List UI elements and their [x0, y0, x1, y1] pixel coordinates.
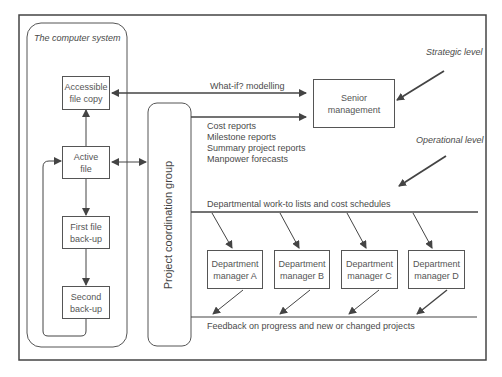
box-line: manager B: [278, 270, 325, 282]
box-line: Active: [74, 151, 99, 163]
second-backup-box[interactable]: Secondback-up: [62, 286, 110, 319]
box-line: Second: [70, 291, 102, 303]
strategic-level-label: Strategic level: [426, 47, 483, 58]
department-manager-b-box[interactable]: Departmentmanager B: [274, 250, 330, 289]
computer-system-label: The computer system: [34, 33, 121, 44]
box-line: Department: [211, 258, 258, 270]
box-line: file copy: [64, 93, 107, 105]
box-line: back-up: [70, 303, 102, 315]
department-manager-d-box[interactable]: Departmentmanager D: [408, 250, 465, 289]
active-file-box[interactable]: Activefile: [62, 146, 110, 179]
box-line: First file: [70, 221, 102, 233]
arrow-to-dept-d: [413, 213, 432, 248]
arrow-to-dept-a: [212, 213, 232, 248]
arrow-to-dept-c: [347, 213, 366, 248]
box-line: Department: [278, 258, 325, 270]
box-line: Accessible: [64, 81, 107, 93]
operational-level-label: Operational level: [416, 135, 484, 146]
arrow-from-dept-a: [213, 290, 243, 314]
feedback-label: Feedback on progress and new or changed …: [207, 321, 415, 332]
arrow-strategic-level: [397, 71, 444, 100]
box-line: Senior: [328, 92, 381, 104]
arrow-operational-level: [399, 156, 446, 186]
arrow-from-dept-d: [417, 290, 447, 314]
box-line: manager A: [211, 270, 258, 282]
first-file-backup-box[interactable]: First fileback-up: [62, 216, 110, 249]
project-coordination-group-label: Project coordination group: [162, 145, 176, 305]
report-item: Cost reports: [207, 121, 256, 132]
department-manager-c-box[interactable]: Departmentmanager C: [341, 250, 398, 289]
accessible-file-copy-box[interactable]: Accessiblefile copy: [62, 76, 110, 110]
arrow-to-dept-b: [280, 213, 299, 248]
box-line: manager C: [346, 270, 393, 282]
box-line: Department: [413, 258, 460, 270]
box-line: file: [74, 163, 99, 175]
report-item: Milestone reports: [207, 132, 276, 143]
arrow-from-dept-b: [280, 290, 310, 314]
arrow-from-dept-c: [349, 290, 379, 314]
report-item: Summary project reports: [207, 143, 306, 154]
senior-management-box[interactable]: Seniormanagement: [313, 79, 395, 128]
box-line: Department: [346, 258, 393, 270]
department-manager-a-box[interactable]: Departmentmanager A: [207, 250, 263, 289]
box-line: management: [328, 104, 381, 116]
work-to-label: Departmental work-to lists and cost sche…: [207, 199, 391, 210]
report-item: Manpower forecasts: [207, 154, 288, 165]
box-line: back-up: [70, 233, 102, 245]
what-if-label: What-if? modelling: [210, 81, 285, 92]
box-line: manager D: [413, 270, 460, 282]
